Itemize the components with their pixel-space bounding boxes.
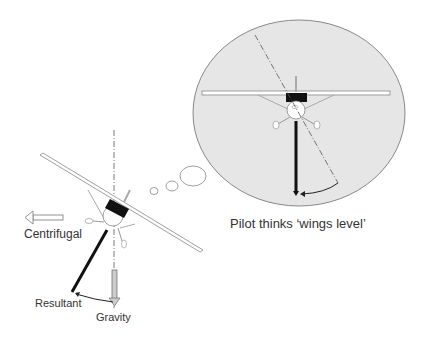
resultant-label: Resultant	[35, 297, 81, 309]
banked-aircraft	[25, 130, 203, 308]
centrifugal-label: Centrifugal	[24, 227, 82, 241]
diagram-canvas	[0, 0, 426, 337]
thought-bubble	[150, 20, 405, 206]
thought-caption: Pilot thinks ‘wings level’	[230, 216, 366, 231]
gravity-label: Gravity	[96, 311, 131, 323]
